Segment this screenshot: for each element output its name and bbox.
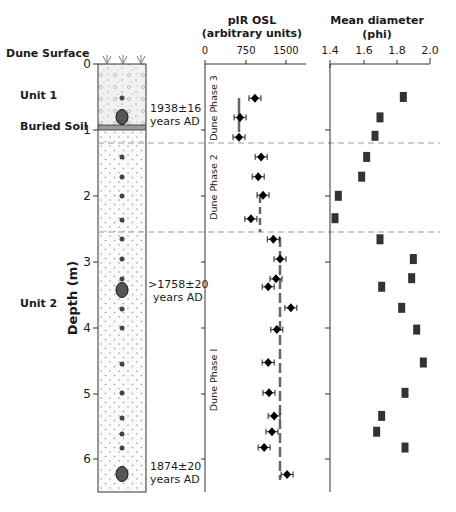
pir-data-point — [285, 303, 297, 312]
svg-text:5: 5 — [83, 387, 91, 401]
phi-data-point — [332, 213, 339, 223]
phi-data-point — [408, 273, 415, 283]
pir-data-point — [267, 235, 279, 244]
pir-data-point — [281, 470, 293, 479]
depth-axis-label: Depth (m) — [65, 261, 80, 335]
pir-data-point — [233, 133, 245, 142]
svg-text:Mean diameter: Mean diameter — [330, 14, 424, 27]
phi-data-point — [335, 191, 342, 201]
phi-data-point — [378, 282, 385, 292]
age-label-2: >1758±20 — [148, 278, 208, 291]
phi-data-point — [402, 388, 409, 398]
svg-text:Dune Phase I: Dune Phase I — [208, 349, 219, 411]
pir-data-point — [234, 113, 246, 122]
dated-sample-1 — [116, 110, 128, 125]
pir-data-point — [268, 411, 280, 420]
phi-data-point — [413, 325, 420, 335]
pir-data-point — [262, 282, 274, 291]
pir-osl-panel: pIR OSL (arbitrary units) 0 750 1500 Dun… — [201, 14, 306, 492]
age-label-2-unit: years AD — [153, 291, 203, 304]
svg-text:1.4: 1.4 — [321, 44, 339, 57]
phi-data-point — [402, 443, 409, 453]
unit2-label: Unit 2 — [20, 297, 57, 310]
phase-boundaries — [98, 143, 440, 232]
svg-text:(phi): (phi) — [362, 28, 392, 41]
pir-data-points — [233, 94, 297, 479]
buried-soil-label: Buried Soil — [20, 120, 88, 133]
svg-text:1500: 1500 — [273, 45, 298, 56]
svg-text:2.0: 2.0 — [421, 44, 439, 57]
age-label-3: 1874±20 — [150, 460, 201, 473]
phi-data-point — [420, 358, 427, 368]
svg-text:6: 6 — [83, 452, 91, 466]
svg-text:3: 3 — [83, 255, 91, 269]
pir-data-point — [262, 358, 274, 367]
phi-data-point — [410, 254, 417, 264]
phi-data-point — [378, 411, 385, 421]
unit1-label: Unit 1 — [20, 89, 57, 102]
phi-data-point — [398, 303, 405, 313]
pir-data-point — [258, 443, 270, 452]
svg-text:1: 1 — [83, 123, 91, 137]
phi-data-point — [377, 112, 384, 122]
svg-text:1.6: 1.6 — [355, 44, 373, 57]
pir-data-point — [255, 152, 267, 161]
phi-data-point — [358, 172, 365, 182]
vegetation-icon — [103, 55, 145, 64]
phi-data-points — [332, 92, 427, 453]
pir-data-point — [252, 172, 264, 181]
dated-sample-2 — [116, 283, 128, 298]
phi-data-point — [377, 234, 384, 244]
svg-text:(arbitrary units): (arbitrary units) — [202, 27, 302, 40]
dated-sample-3 — [116, 467, 128, 482]
pir-data-point — [263, 388, 275, 397]
phi-data-point — [373, 427, 380, 437]
pir-data-point — [245, 214, 257, 223]
mean-diameter-panel: Mean diameter (phi) 1.4 1.6 1.8 2.0 — [321, 14, 439, 492]
pir-data-point — [249, 94, 261, 103]
age-label-3-unit: years AD — [150, 473, 200, 486]
phi-data-point — [400, 92, 407, 102]
phi-data-point — [363, 152, 370, 162]
svg-text:2: 2 — [83, 189, 91, 203]
svg-text:1.8: 1.8 — [388, 44, 406, 57]
age-label-1: 1938±16 — [150, 102, 201, 115]
dune-surface-label: Dune Surface — [6, 47, 89, 60]
depth-axis: 0 1 2 3 4 5 6 — [83, 57, 98, 466]
phi-data-point — [372, 131, 379, 141]
pir-data-point — [266, 427, 278, 436]
age-label-1-unit: years AD — [150, 115, 200, 128]
svg-text:0: 0 — [83, 57, 91, 71]
svg-text:750: 750 — [236, 45, 255, 56]
figure: Dune Surface Unit 1 Buried Soil Unit 2 D… — [0, 0, 456, 512]
svg-text:0: 0 — [202, 45, 208, 56]
svg-text:Dune Phase 3: Dune Phase 3 — [208, 75, 219, 141]
pir-data-point — [274, 255, 286, 264]
svg-text:4: 4 — [83, 321, 91, 335]
svg-text:pIR OSL: pIR OSL — [228, 14, 277, 27]
stratigraphic-column — [98, 55, 146, 492]
svg-text:Dune Phase 2: Dune Phase 2 — [208, 154, 219, 220]
